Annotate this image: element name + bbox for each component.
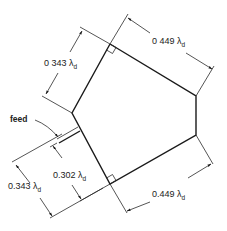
label-top-right: 0 449 λd [152,36,186,48]
antenna-diagram: 0 343 λd 0 449 λd feed 0.302 λd 0.343 λd… [0,0,227,231]
label-bottom-left: 0.343 λd [8,181,42,193]
dim-top-right [110,14,214,96]
label-bottom-right: 0.449 λd [152,189,186,201]
dim-bottom-right [110,135,213,213]
patch-outline [72,44,196,184]
label-inner: 0.302 λd [53,170,87,182]
label-top-left: 0 343 λd [44,58,78,70]
feed-leader [35,120,58,137]
dim-top-left [42,27,110,113]
feed-label: feed [10,114,27,124]
